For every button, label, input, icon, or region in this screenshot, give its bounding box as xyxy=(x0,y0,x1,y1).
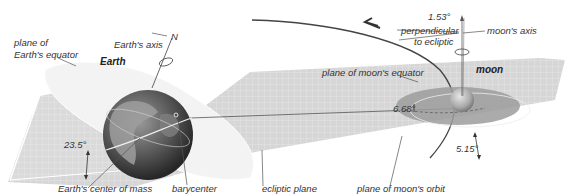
label-perpendicular-1: perpendicular xyxy=(400,25,459,36)
orbit-direction-arrow-icon xyxy=(365,18,380,28)
earth-moon-diagram: plane of Earth's equator Earth's axis N … xyxy=(0,0,565,196)
earth-globe xyxy=(103,90,194,180)
label-earths-axis: Earth's axis xyxy=(114,39,163,50)
label-earths-center-of-mass: Earth's center of mass xyxy=(58,183,152,194)
label-perpendicular-2: to ecliptic xyxy=(414,36,454,47)
label-plane-of-earths-equator-1: plane of xyxy=(13,37,49,48)
label-barycenter: barycenter xyxy=(172,183,218,194)
label-moon-equator-angle: 6.68° xyxy=(393,103,415,114)
label-plane-of-moons-orbit: plane of moon's orbit xyxy=(356,183,445,194)
label-north: N xyxy=(171,31,178,42)
label-plane-of-earths-equator-2: Earth's equator xyxy=(14,49,79,60)
label-moons-axis: moon's axis xyxy=(487,25,537,36)
label-earth-tilt-angle: 23.5° xyxy=(63,139,86,150)
label-plane-of-moons-equator: plane of moon's equator xyxy=(321,67,424,78)
label-moon-axis-tilt-angle: 1.53° xyxy=(428,11,450,22)
label-moon: moon xyxy=(476,64,503,75)
label-earth: Earth xyxy=(100,56,126,67)
label-orbit-inclination-angle: 5.15° xyxy=(456,143,478,154)
label-ecliptic-plane: ecliptic plane xyxy=(262,183,317,194)
